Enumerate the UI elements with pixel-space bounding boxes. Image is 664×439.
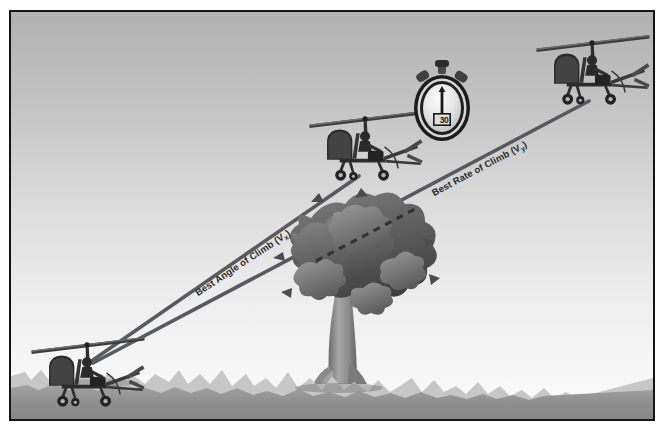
stopwatch-display-value: 30: [434, 114, 454, 126]
figure-page: 30 Best Angle of Climb (Vx) Best Rate of…: [0, 0, 664, 439]
illustration-scene: 30 Best Angle of Climb (Vx) Best Rate of…: [11, 12, 653, 419]
figure-frame: 30 Best Angle of Climb (Vx) Best Rate of…: [9, 10, 655, 421]
stopwatch: [414, 60, 470, 141]
stopwatch-plunger-cap: [435, 60, 449, 67]
scene-svg: [11, 12, 653, 419]
stopwatch-needle: [441, 90, 444, 116]
